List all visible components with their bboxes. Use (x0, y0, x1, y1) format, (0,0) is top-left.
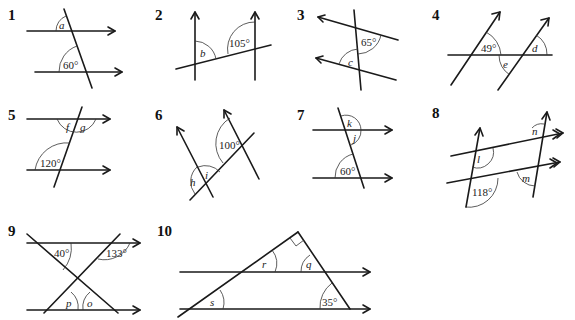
diagram-2: 2 b 105° (155, 7, 271, 80)
diagram-number: 1 (8, 7, 16, 23)
diagram-number: 5 (8, 107, 16, 123)
diagram-number: 7 (297, 107, 305, 123)
angle-value: 100° (219, 139, 240, 151)
diagram-number: 3 (297, 7, 305, 23)
diagram-3: 3 65° c (297, 7, 398, 90)
angle-value: 60° (340, 165, 355, 177)
diagram-9: 9 40° 133° p o (8, 223, 140, 314)
angle-value: 120° (40, 157, 61, 169)
angle-value: 35° (322, 296, 337, 308)
transversal-falling (27, 234, 118, 313)
angle-label: p (65, 297, 72, 309)
angle-value: 60° (63, 59, 78, 71)
diagram-number: 8 (432, 105, 440, 121)
angle-label: d (532, 42, 538, 54)
diagram-1: 1 a 60° (8, 7, 122, 88)
transversal (64, 9, 92, 88)
angle-label: i (205, 169, 208, 181)
parallel-line-right (498, 18, 549, 90)
angle-arc (195, 41, 216, 59)
diagram-number: 4 (432, 7, 440, 23)
angle-arc (272, 250, 277, 272)
diagram-10: 10 r q s 35° (157, 223, 370, 317)
diagram-number: 2 (155, 7, 163, 23)
parallel-line-lower (316, 58, 396, 80)
angle-label: n (532, 125, 538, 137)
angle-label: c (348, 56, 353, 68)
angle-value: 49° (481, 42, 496, 54)
parallel-line-upper (318, 17, 398, 40)
angle-value: 118° (472, 186, 493, 198)
diagram-4: 4 49° e d (432, 7, 552, 90)
angle-label: e (503, 58, 508, 70)
transversal (176, 45, 271, 69)
diagram-8: 8 l n m 118° (432, 105, 563, 207)
parallel-line-upper (451, 133, 563, 156)
angle-label: k (347, 117, 353, 129)
angle-arc (536, 35, 547, 55)
angle-arc (220, 290, 224, 309)
angle-exercises-figure: 1 a 60° 2 b 105° 3 65° c 4 (0, 0, 575, 320)
angle-value: 40° (54, 247, 69, 259)
angle-label: a (59, 19, 65, 31)
angle-value: 105° (229, 37, 250, 49)
diagram-number: 6 (155, 107, 163, 123)
diagram-6: 6 h i 100° (155, 107, 259, 200)
angle-arc (71, 292, 78, 310)
angle-label: r (262, 258, 267, 270)
triangle-side-left (178, 232, 298, 317)
diagram-number: 10 (157, 223, 172, 239)
transversal-rising (44, 234, 120, 313)
angle-label: b (200, 47, 206, 59)
angle-label: s (210, 296, 214, 308)
angle-label: h (190, 176, 196, 188)
angle-label: j (351, 132, 356, 144)
angle-label: l (477, 153, 480, 165)
diagram-5: 5 f g 120° (8, 107, 110, 187)
angle-label: q (306, 258, 312, 270)
angle-value: 65° (361, 36, 376, 48)
diagram-number: 9 (8, 223, 16, 239)
angle-label: m (522, 172, 530, 184)
parallel-line-lower (447, 162, 560, 183)
transversal (354, 10, 361, 90)
angle-label: g (80, 121, 86, 133)
diagram-7: 7 k j 60° (297, 107, 392, 188)
angle-label: o (87, 297, 93, 309)
angle-value: 133° (106, 247, 127, 259)
